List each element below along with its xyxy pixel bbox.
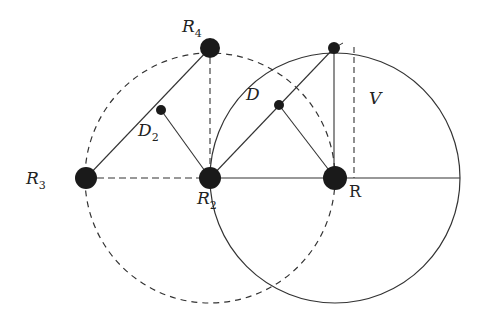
node-d <box>274 100 284 110</box>
node-r <box>323 166 347 190</box>
node-r2 <box>199 167 221 189</box>
line-d-r <box>279 105 335 178</box>
node-r3 <box>75 167 97 189</box>
label-r3: R3 <box>25 168 46 192</box>
node-top <box>328 42 340 54</box>
node-r4 <box>200 38 220 58</box>
label-d: D <box>245 84 260 104</box>
diagram-canvas: R4 R3 R2 D2 D V R <box>0 0 486 328</box>
node-d2 <box>156 105 166 115</box>
label-d2: D2 <box>137 120 159 144</box>
label-r4: R4 <box>181 16 202 40</box>
label-r: R <box>349 182 362 201</box>
line-r3-r4 <box>86 48 210 178</box>
label-v: V <box>369 88 383 108</box>
line-d2-r2 <box>161 110 210 178</box>
label-r2: R2 <box>196 188 217 212</box>
